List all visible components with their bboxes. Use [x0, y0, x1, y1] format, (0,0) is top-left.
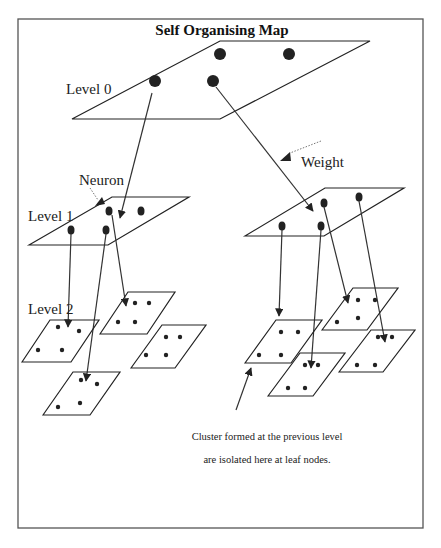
weight-link: [311, 230, 321, 368]
cluster-pointer: [236, 368, 251, 410]
neuron-icon: [138, 207, 145, 216]
neuron-pointer: [90, 188, 98, 200]
neuron-icon: [321, 199, 328, 208]
neuron-icon: [214, 48, 226, 60]
caption-line-1: Cluster formed at the previous level: [192, 431, 343, 442]
neuron-icon: [103, 226, 110, 235]
weight-link: [324, 207, 348, 303]
caption-line-2: are isolated here at leaf nodes.: [203, 454, 330, 465]
neuron-icon: [318, 222, 325, 231]
weight-link: [120, 93, 152, 218]
weight-link: [279, 230, 282, 316]
diagram-title: Self Organising Map: [155, 22, 288, 38]
level-2-map: [43, 372, 120, 415]
level-2-map: [100, 292, 175, 334]
som-diagram: Self Organising Map Level 0 Weight Neuro…: [0, 0, 441, 548]
weight-link: [359, 201, 385, 342]
neuron-icon: [149, 75, 161, 87]
neuron-icon: [283, 48, 295, 60]
neuron-icon: [68, 226, 75, 235]
level-0-map: [72, 41, 370, 119]
arrowhead-icon: [280, 152, 291, 161]
weight-link: [216, 87, 313, 211]
weight-pointer: [290, 141, 321, 153]
neuron-icon: [106, 207, 113, 216]
weight-link: [112, 215, 126, 306]
neuron-icon: [207, 75, 219, 87]
weight-link: [86, 234, 106, 381]
level-2-map: [322, 288, 398, 330]
level-2-map: [268, 353, 345, 396]
neuron-icon: [356, 193, 363, 202]
weight-label: Weight: [301, 154, 345, 170]
level-2-label: Level 2: [28, 301, 73, 317]
level-0-label: Level 0: [66, 81, 111, 97]
level-2-map: [131, 325, 206, 368]
level-2-map: [22, 320, 99, 362]
neuron-label: Neuron: [79, 172, 124, 188]
neuron-icon: [279, 222, 286, 231]
level-1-map-right: [245, 188, 404, 236]
level-1-label: Level 1: [28, 208, 73, 224]
level-2-map: [245, 320, 322, 363]
level-2-map: [339, 330, 415, 372]
